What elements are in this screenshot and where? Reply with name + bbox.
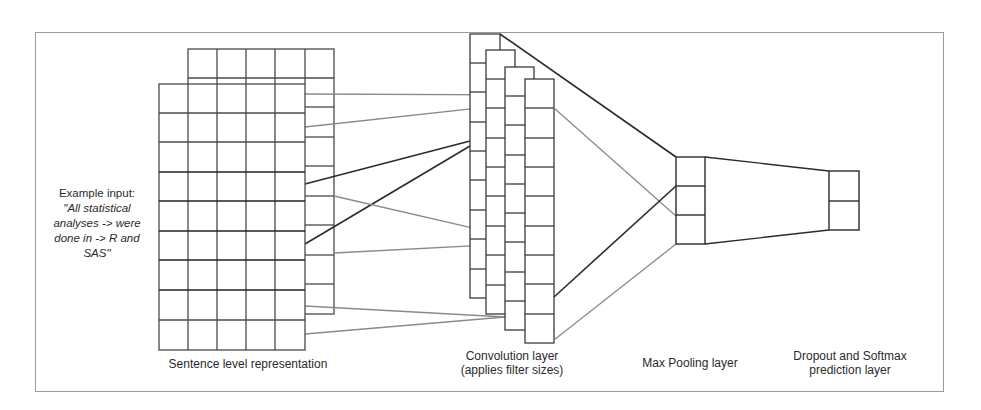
label-conv-layer: Convolution layer (applies filter sizes): [450, 349, 574, 377]
sentence-matrix-front: [159, 84, 305, 350]
conv-feature-maps: [470, 34, 554, 343]
example-input-sentence: "All statistical analyses -> were done i…: [43, 201, 151, 261]
label-softmax-line1: Dropout and Softmax: [784, 349, 916, 363]
label-softmax-layer: Dropout and Softmax prediction layer: [784, 349, 916, 377]
pool-softmax-connections: [705, 157, 829, 244]
label-maxpool-layer: Max Pooling layer: [630, 356, 750, 370]
label-conv-line2: (applies filter sizes): [450, 363, 574, 377]
conv-map-4: [525, 79, 554, 343]
softmax-vector: [829, 171, 859, 230]
label-softmax-line2: prediction layer: [784, 363, 916, 377]
label-conv-line1: Convolution layer: [450, 349, 574, 363]
maxpool-vector: [676, 157, 705, 244]
example-input-label: Example input:: [43, 186, 151, 201]
example-input-text: Example input: "All statistical analyses…: [43, 186, 151, 261]
label-sentence-layer: Sentence level representation: [158, 357, 338, 371]
